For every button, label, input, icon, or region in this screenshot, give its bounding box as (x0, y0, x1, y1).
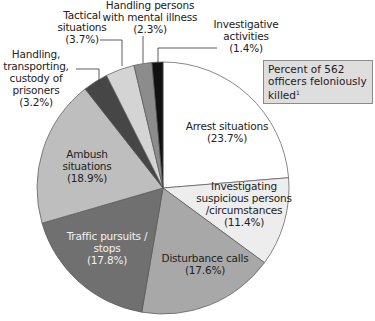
label-prisoners-line3: custody of (0, 72, 72, 84)
label-disturbance: Disturbance calls (17.6%) (155, 252, 255, 276)
label-arrest-value: (23.7%) (172, 132, 282, 144)
label-prisoners-line4: prisoners (0, 84, 72, 96)
label-prisoners-line2: transporting, (0, 60, 72, 72)
label-investigative-line2: activities (209, 30, 283, 42)
label-investigative-line1: Investigative (209, 18, 283, 30)
chart-title-line1: Percent of 562 (268, 63, 372, 75)
chart-title-line3: killed1 (268, 87, 372, 101)
label-suspicious: Investigating suspicious persons /circum… (196, 180, 292, 228)
label-investigative-value: (1.4%) (209, 42, 283, 54)
label-mental-line1: Handling persons (100, 0, 200, 11)
label-ambush-line1: Ambush (52, 148, 122, 160)
label-suspicious-line2: suspicious persons (196, 192, 292, 204)
label-arrest-name: Arrest situations (172, 120, 282, 132)
label-traffic: Traffic pursuits / stops (17.8%) (57, 230, 157, 266)
chart-title-box: Percent of 562 officers feloniously kill… (263, 60, 373, 104)
label-disturbance-value: (17.6%) (155, 264, 255, 276)
label-arrest: Arrest situations (23.7%) (172, 120, 282, 144)
label-mental: Handling persons with mental illness (2.… (100, 0, 200, 35)
label-suspicious-line3: /circumstances (196, 204, 292, 216)
label-mental-line2: with mental illness (100, 11, 200, 23)
label-suspicious-line1: Investigating (196, 180, 292, 192)
label-traffic-line1: Traffic pursuits / (57, 230, 157, 242)
label-mental-value: (2.3%) (100, 23, 200, 35)
label-ambush-value: (18.9%) (52, 172, 122, 184)
label-ambush-line2: situations (52, 160, 122, 172)
label-investigative: Investigative activities (1.4%) (209, 18, 283, 54)
label-disturbance-name: Disturbance calls (155, 252, 255, 264)
chart-title-line2: officers feloniously (268, 75, 372, 87)
label-ambush: Ambush situations (18.9%) (52, 148, 122, 184)
label-prisoners-line1: Handling, (0, 48, 72, 60)
label-prisoners-value: (3.2%) (0, 96, 72, 108)
chart-title-killed: killed (268, 89, 296, 101)
label-suspicious-value: (11.4%) (196, 216, 292, 228)
label-traffic-value: (17.8%) (57, 254, 157, 266)
label-prisoners: Handling, transporting, custody of priso… (0, 48, 72, 108)
leader-line-prisoners (76, 69, 99, 82)
footnote-marker: 1 (296, 89, 300, 96)
label-traffic-line2: stops (57, 242, 157, 254)
